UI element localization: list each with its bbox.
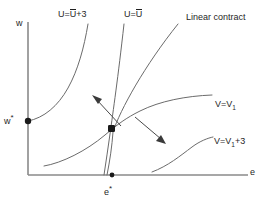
curve-label-u-bar: U=U xyxy=(124,10,142,19)
curve-v-equals-v1 xyxy=(44,95,212,166)
curve-label-v-equals-v1-plus-3: V=V1+3 xyxy=(214,137,245,148)
e-star-point-marker xyxy=(110,173,115,178)
u-overbar-glyph: U xyxy=(70,10,77,19)
curve-label-linear-contract: Linear contract xyxy=(186,13,246,22)
e-star-superscript: * xyxy=(109,184,112,193)
curve-u-bar-plus-3 xyxy=(28,24,88,121)
profit-increasing-arrow xyxy=(135,117,166,144)
v1-subscript: 1 xyxy=(232,104,236,111)
w-star-label: w* xyxy=(4,114,14,126)
w-star-superscript: * xyxy=(11,113,14,122)
u-overbar-glyph-2: U xyxy=(136,10,143,19)
e-star-label: e* xyxy=(104,185,112,197)
line-linear-contract xyxy=(107,24,178,175)
y-axis-label: w xyxy=(16,19,23,28)
w-star-point-marker xyxy=(25,118,31,124)
x-axis-label: e xyxy=(250,168,255,177)
utility-increasing-arrow xyxy=(92,95,121,126)
curve-label-u-bar-plus-3: U=U+3 xyxy=(58,10,87,19)
indifference-curve-figure: w e w* e* U=U+3 U=U Linear contract V=V1… xyxy=(0,0,273,213)
tangency-point-marker xyxy=(108,125,115,132)
curve-label-v-equals-v1: V=V1 xyxy=(215,100,236,111)
curve-u-bar xyxy=(104,24,124,175)
